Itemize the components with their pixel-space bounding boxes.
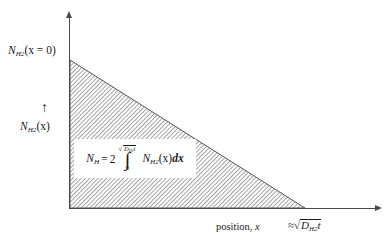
equals-sign: = [101, 153, 108, 165]
profile-triangle [70, 60, 305, 208]
x-axis-label-variable: x [255, 221, 260, 232]
y-axis-direction-arrow-icon: ↑ [41, 101, 48, 115]
x-axis-label: position, x [216, 222, 260, 233]
y-axis-top-label: NH2(x = 0) [8, 45, 56, 58]
nh-symbol: N [86, 152, 94, 164]
nh-subscript: H [94, 157, 99, 165]
upper-limit-t: t [134, 145, 136, 152]
nx-argument: (x) [36, 120, 49, 132]
n-argument: (x = 0) [24, 44, 55, 56]
integrand: NH2(x)dx [142, 152, 183, 166]
integral-lower-limit: 0 [126, 165, 129, 172]
equation-lhs: NH [86, 152, 99, 166]
total-hydrogen-equation: NH = 2 √DH2t ∫ 0 NH2(x)dx [86, 145, 183, 172]
xmax-t: t [317, 219, 320, 231]
y-axis-arrowhead-icon [66, 11, 72, 18]
differential-dx: dx [172, 152, 184, 164]
equation-callout-box: NH = 2 √DH2t ∫ 0 NH2(x)dx [74, 139, 196, 178]
integral-with-limits: √DH2t ∫ 0 [118, 145, 136, 172]
x-axis-arrowhead-icon [375, 205, 382, 211]
sqrt-expression: √DH2t [294, 219, 321, 233]
xmax-D: D [301, 219, 309, 231]
nx-symbol: N [20, 120, 28, 132]
integrand-argument: (x) [159, 152, 172, 164]
integrand-N: N [142, 152, 150, 164]
y-axis-mid-label: NH2(x) [20, 121, 50, 134]
n-symbol: N [8, 44, 16, 56]
x-axis-end-marker: ≈√DH2t [288, 219, 321, 233]
x-axis-line [69, 208, 379, 209]
coefficient-two: 2 [110, 153, 116, 165]
y-axis-line [69, 17, 70, 209]
x-axis-label-text: position, [216, 221, 252, 232]
figure-canvas: NH2(x = 0) ↑ NH2(x) NH = 2 √DH2t ∫ 0 NH2… [0, 0, 389, 249]
concentration-profile-svg [0, 0, 389, 249]
